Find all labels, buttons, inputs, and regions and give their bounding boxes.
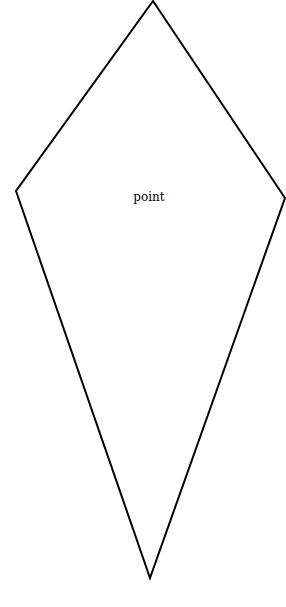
- kite-shape: [16, 1, 285, 578]
- kite-label: point: [0, 190, 286, 204]
- kite-diagram: [0, 0, 286, 607]
